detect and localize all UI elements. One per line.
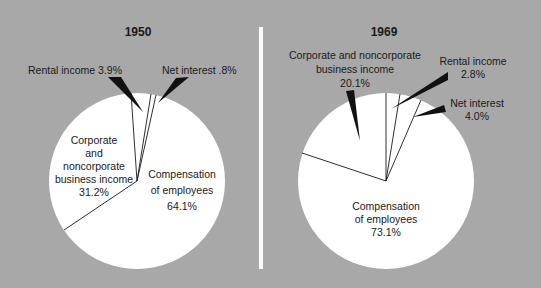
- label-1950-rental: Rental income 3.9%: [28, 64, 122, 77]
- label-1969-rental: Rental income 2.8%: [438, 55, 508, 81]
- label-1950-business: Corporate and noncorporate business inco…: [52, 134, 136, 199]
- label-1969-business: Corporate and noncorporate business inco…: [280, 49, 430, 90]
- label-1969-compensation: Compensation of employees 73.1%: [346, 200, 426, 239]
- chart-divider: [259, 27, 263, 269]
- chart-title-1969: 1969: [354, 25, 414, 39]
- label-1950-interest: Net interest .8%: [162, 64, 237, 77]
- label-1969-interest: Net interest 4.0%: [445, 97, 509, 123]
- label-1950-compensation: Compensation of employees 64.1%: [144, 168, 220, 213]
- chart-title-1950: 1950: [108, 25, 168, 39]
